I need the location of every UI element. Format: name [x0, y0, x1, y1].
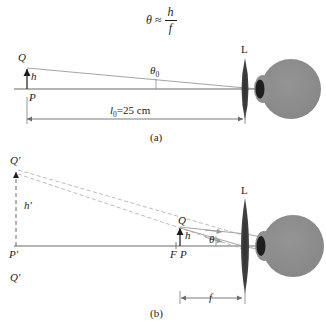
panel-a-graphics — [14, 58, 321, 124]
panel-b-graphics — [14, 170, 324, 304]
panel-b-label-h-prime: h′ — [24, 200, 32, 211]
panel-b-label-Q-prime-top: Q′ — [10, 155, 20, 166]
panel-b-pupil — [257, 236, 266, 256]
panel-a-pupil — [256, 80, 265, 99]
panel-b-label-L: L — [241, 185, 248, 196]
panel-a-label-L: L — [241, 44, 248, 55]
panel-b-label-Q-prime-lower: Q′ — [10, 272, 20, 283]
panel-a-label-distance: l0=25 cm — [110, 105, 150, 119]
panel-b-label-h: h — [185, 230, 191, 241]
panel-a-label-theta0: θ0 — [150, 65, 159, 79]
panel-b-virtual-ray-1 — [18, 170, 246, 236]
panel-a-caption: (a) — [150, 132, 162, 143]
panel-b-label-theta: θ — [209, 234, 214, 245]
panel-a-label-h: h — [31, 71, 37, 82]
panel-a-theta-subscript: 0 — [155, 70, 159, 79]
panel-a-ray-upper — [27, 68, 246, 88]
panel-a-label-Q: Q — [18, 52, 26, 63]
panel-b-label-P: P — [180, 249, 187, 260]
panel-a-label-P: P — [29, 92, 36, 103]
panel-b-lens — [241, 198, 249, 294]
panel-b-label-F: F — [170, 249, 177, 260]
panel-b-caption: (b) — [150, 308, 163, 319]
panel-a-distance-value: =25 cm — [117, 104, 150, 116]
panel-b-label-Q: Q — [178, 215, 186, 226]
figure-canvas — [0, 0, 326, 328]
panel-b-label-P-prime: P′ — [9, 249, 18, 260]
panel-b-label-focal-length: f — [209, 292, 212, 303]
panel-a-lens — [242, 58, 249, 120]
optics-figure: θ ≈ h f — [0, 0, 326, 328]
